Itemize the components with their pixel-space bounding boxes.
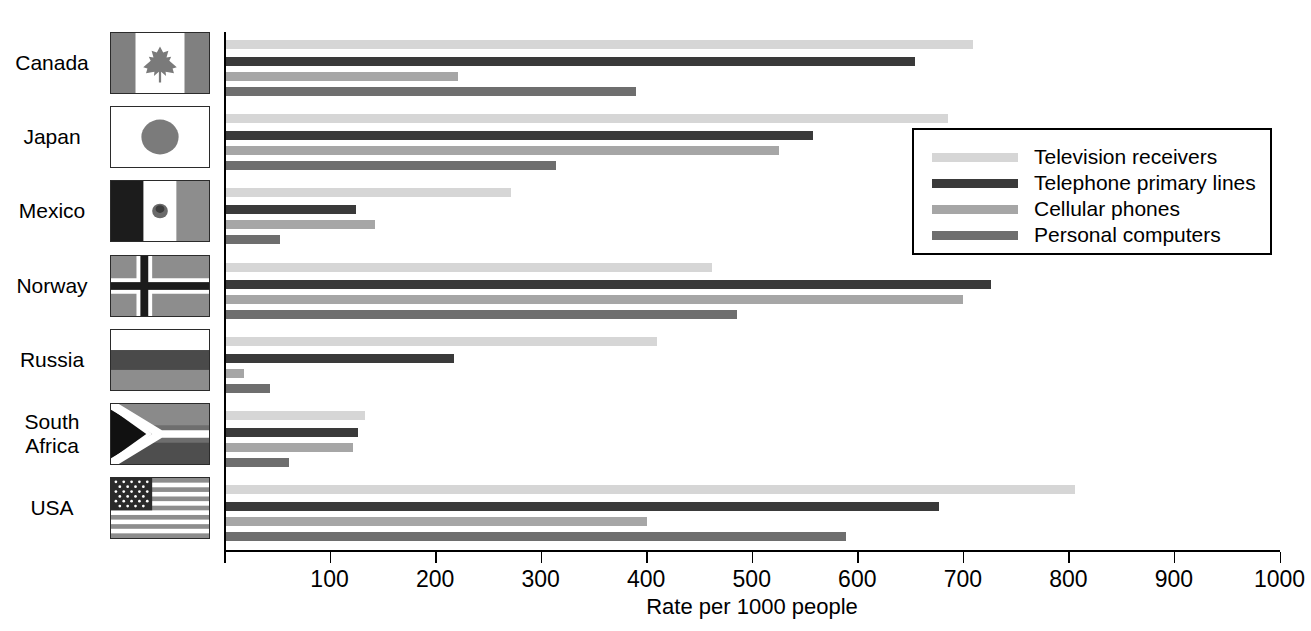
x-tick-label: 800	[1049, 566, 1087, 593]
x-tick	[541, 552, 543, 563]
country-label: Canada	[0, 32, 104, 94]
flag-japan-icon	[110, 106, 210, 168]
legend-label: Telephone primary lines	[1034, 171, 1256, 195]
country-label: Norway	[0, 255, 104, 317]
legend: Television receiversTelephone primary li…	[912, 128, 1272, 255]
x-tick-label: 900	[1155, 566, 1193, 593]
bar-south-africa-cellular-phones	[224, 443, 353, 452]
flag-norway-icon	[110, 255, 210, 317]
country-label: Russia	[0, 329, 104, 391]
flag-usa-icon	[110, 477, 210, 539]
bar-norway-personal-computers	[224, 310, 737, 319]
x-axis-title: Rate per 1000 people	[224, 594, 1280, 620]
legend-line-swatch	[932, 205, 1018, 214]
legend-item-telephone-primary-lines[interactable]: Telephone primary lines	[932, 170, 1256, 196]
x-tick	[1280, 552, 1282, 563]
bar-south-africa-telephone-primary-lines	[224, 428, 358, 437]
bar-canada-personal-computers	[224, 87, 636, 96]
legend-item-television-receivers[interactable]: Television receivers	[932, 144, 1217, 170]
legend-label: Television receivers	[1034, 145, 1217, 169]
x-tick-label: 1000	[1254, 566, 1305, 593]
bar-mexico-television-receivers	[224, 188, 511, 197]
bar-chart: CanadaJapanMexicoNorwayRussiaSouth Afric…	[0, 0, 1311, 631]
y-axis-line	[224, 32, 226, 551]
bar-mexico-cellular-phones	[224, 220, 375, 229]
flag-russia-icon	[110, 329, 210, 391]
legend-item-cellular-phones[interactable]: Cellular phones	[932, 196, 1180, 222]
country-row-russia: Russia	[0, 329, 212, 391]
bar-usa-telephone-primary-lines	[224, 502, 939, 511]
x-tick	[646, 552, 648, 563]
x-tick	[1068, 552, 1070, 563]
bar-norway-television-receivers	[224, 263, 712, 272]
bar-japan-personal-computers	[224, 161, 556, 170]
bar-usa-cellular-phones	[224, 517, 647, 526]
bar-mexico-telephone-primary-lines	[224, 205, 356, 214]
bar-japan-cellular-phones	[224, 146, 779, 155]
bar-south-africa-personal-computers	[224, 458, 289, 467]
bar-japan-telephone-primary-lines	[224, 131, 813, 140]
country-row-south-africa: South Africa	[0, 403, 212, 465]
bar-russia-cellular-phones	[224, 369, 244, 378]
x-tick-label: 200	[416, 566, 454, 593]
bar-canada-television-receivers	[224, 40, 973, 49]
bar-japan-television-receivers	[224, 114, 948, 123]
x-tick	[1174, 552, 1176, 563]
bar-russia-television-receivers	[224, 337, 657, 346]
x-tick	[752, 552, 754, 563]
legend-label: Cellular phones	[1034, 197, 1180, 221]
legend-label: Personal computers	[1034, 223, 1221, 247]
country-row-canada: Canada	[0, 32, 212, 94]
bar-mexico-personal-computers	[224, 235, 280, 244]
plot-area	[224, 32, 1279, 551]
legend-line-swatch	[932, 231, 1018, 240]
bar-south-africa-television-receivers	[224, 411, 365, 420]
x-tick	[857, 552, 859, 563]
country-row-usa: USA	[0, 477, 212, 539]
country-label: South Africa	[0, 403, 104, 465]
x-tick	[224, 552, 226, 563]
bar-canada-cellular-phones	[224, 72, 458, 81]
x-tick	[963, 552, 965, 563]
flag-mexico-icon	[110, 180, 210, 242]
x-tick	[435, 552, 437, 563]
bar-norway-cellular-phones	[224, 295, 963, 304]
bar-russia-telephone-primary-lines	[224, 354, 454, 363]
country-label: Mexico	[0, 180, 104, 242]
x-tick-label: 100	[310, 566, 348, 593]
bar-usa-television-receivers	[224, 485, 1075, 494]
country-row-mexico: Mexico	[0, 180, 212, 242]
bar-usa-personal-computers	[224, 532, 846, 541]
country-row-japan: Japan	[0, 106, 212, 168]
country-label: USA	[0, 477, 104, 539]
x-tick-label: 400	[627, 566, 665, 593]
x-tick-label: 600	[838, 566, 876, 593]
x-tick-label: 700	[944, 566, 982, 593]
country-row-norway: Norway	[0, 255, 212, 317]
flag-south-africa-icon	[110, 403, 210, 465]
legend-line-swatch	[932, 153, 1018, 162]
bar-canada-telephone-primary-lines	[224, 57, 915, 66]
bar-russia-personal-computers	[224, 384, 270, 393]
x-tick-label: 300	[521, 566, 559, 593]
x-tick	[330, 552, 332, 563]
bar-norway-telephone-primary-lines	[224, 280, 991, 289]
legend-line-swatch	[932, 179, 1018, 188]
x-tick-label: 500	[733, 566, 771, 593]
flag-canada-icon	[110, 32, 210, 94]
country-label: Japan	[0, 106, 104, 168]
legend-item-personal-computers[interactable]: Personal computers	[932, 222, 1221, 248]
